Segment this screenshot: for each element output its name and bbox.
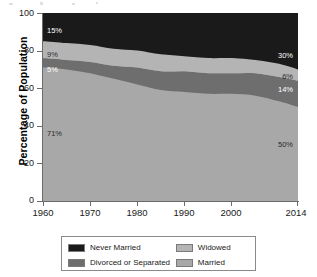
label-widowed-start: 9% [47, 51, 58, 59]
x-tick-label-1980: 1980 [117, 208, 157, 218]
legend-label-widowed: Widowed [198, 243, 231, 252]
x-tick-2000 [231, 201, 232, 206]
x-axis-line [42, 201, 299, 202]
legend-item-divorced-or-separated: Divorced or Separated [68, 258, 176, 267]
label-never-married-end: 30% [278, 52, 293, 60]
plot-area: 15% 9% 5% 71% 30% 6% 14% 50% [43, 13, 298, 201]
legend-row: Divorced or Separated Married [68, 256, 249, 269]
y-axis-line [42, 13, 43, 202]
x-tick-2014 [297, 201, 298, 206]
legend-swatch-divorced-or-separated [68, 259, 85, 267]
legend-swatch-married [176, 259, 193, 267]
x-tick-1980 [137, 201, 138, 206]
y-tick-60 [37, 88, 42, 89]
legend-item-never-married: Never Married [68, 243, 176, 252]
y-tick-20 [37, 163, 42, 164]
stacked-area-chart: 15% 9% 5% 71% 30% 6% 14% 50% 100 80 60 4… [0, 0, 317, 225]
x-tick-label-1990: 1990 [164, 208, 204, 218]
x-tick-label-2014: 2014 [276, 208, 316, 218]
x-tick-1960 [43, 201, 44, 206]
legend-row: Never Married Widowed [68, 241, 249, 254]
y-axis-title: Percentage of Population [17, 26, 29, 176]
legend-item-married: Married [176, 258, 249, 267]
label-widowed-end: 6% [282, 73, 293, 81]
y-tick-label-100: 100 [0, 9, 34, 18]
x-tick-1970 [90, 201, 91, 206]
legend-swatch-widowed [176, 244, 193, 252]
y-tick-80 [37, 51, 42, 52]
label-married-end: 50% [278, 141, 293, 149]
legend-swatch-never-married [68, 244, 85, 252]
x-tick-label-1960: 1960 [23, 208, 63, 218]
x-tick-label-2000: 2000 [211, 208, 251, 218]
x-tick-label-1970: 1970 [70, 208, 110, 218]
label-never-married-start: 15% [47, 27, 62, 35]
legend-label-married: Married [198, 258, 225, 267]
y-tick-40 [37, 126, 42, 127]
legend-label-never-married: Never Married [90, 243, 141, 252]
label-divorced-start: 5% [47, 66, 58, 74]
label-married-start: 71% [47, 130, 62, 138]
legend-item-widowed: Widowed [176, 243, 249, 252]
y-tick-label-0: 0 [0, 196, 34, 205]
legend-label-divorced-or-separated: Divorced or Separated [90, 258, 170, 267]
chart-legend: Never Married Widowed Divorced or Separa… [61, 236, 256, 271]
area-bands [43, 13, 298, 201]
label-divorced-end: 14% [278, 86, 293, 94]
y-tick-0 [37, 201, 42, 202]
x-tick-1990 [184, 201, 185, 206]
y-tick-100 [37, 13, 42, 14]
chart-page: 15% 9% 5% 71% 30% 6% 14% 50% 100 80 60 4… [0, 0, 317, 277]
